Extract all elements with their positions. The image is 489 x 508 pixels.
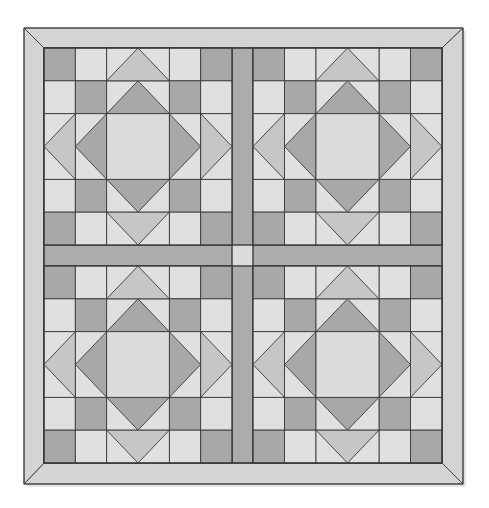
block-bottom-right (253, 266, 442, 463)
light-square (253, 397, 285, 430)
dark-square (253, 48, 285, 81)
border-right (442, 28, 463, 484)
center-square (316, 332, 379, 398)
border-top (24, 28, 463, 48)
dark-square (201, 48, 232, 81)
light-square (201, 397, 232, 430)
border-left (24, 28, 44, 484)
dark-square (169, 299, 200, 332)
light-square (201, 179, 232, 212)
dark-square (44, 430, 75, 463)
dark-square (379, 299, 411, 332)
center-square (107, 332, 170, 398)
light-square (285, 430, 317, 463)
light-square (44, 81, 75, 114)
cornerstone (232, 245, 253, 266)
light-square (75, 212, 106, 245)
light-square (169, 48, 200, 81)
light-square (411, 397, 443, 430)
quilt-svg (0, 0, 489, 508)
light-square (379, 430, 411, 463)
block-bottom-left (44, 266, 232, 463)
dark-square (411, 430, 443, 463)
dark-square (285, 81, 317, 114)
dark-square (44, 48, 75, 81)
dark-square (44, 266, 75, 299)
dark-square (253, 430, 285, 463)
dark-square (75, 179, 106, 212)
dark-square (75, 81, 106, 114)
center-square (107, 114, 170, 180)
center-square (316, 114, 379, 180)
light-square (44, 179, 75, 212)
dark-square (379, 397, 411, 430)
light-square (201, 299, 232, 332)
dark-square (411, 212, 443, 245)
light-square (379, 212, 411, 245)
light-square (253, 299, 285, 332)
light-square (411, 299, 443, 332)
dark-square (75, 397, 106, 430)
dark-square (285, 179, 317, 212)
light-square (201, 81, 232, 114)
light-square (379, 48, 411, 81)
dark-square (285, 299, 317, 332)
dark-square (253, 266, 285, 299)
dark-square (253, 212, 285, 245)
light-square (169, 212, 200, 245)
dark-square (379, 179, 411, 212)
dark-square (285, 397, 317, 430)
block-top-left (44, 48, 232, 245)
light-square (411, 179, 443, 212)
dark-square (201, 430, 232, 463)
dark-square (169, 179, 200, 212)
light-square (253, 179, 285, 212)
light-square (75, 266, 106, 299)
dark-square (169, 397, 200, 430)
light-square (75, 48, 106, 81)
light-square (285, 266, 317, 299)
light-square (379, 266, 411, 299)
light-square (44, 299, 75, 332)
dark-square (44, 212, 75, 245)
dark-square (169, 81, 200, 114)
light-square (253, 81, 285, 114)
quilt-diagram (0, 0, 489, 508)
light-square (75, 430, 106, 463)
block-top-right (253, 48, 442, 245)
dark-square (411, 48, 443, 81)
light-square (44, 397, 75, 430)
light-square (285, 212, 317, 245)
light-square (411, 81, 443, 114)
light-square (285, 48, 317, 81)
dark-square (201, 266, 232, 299)
dark-square (411, 266, 443, 299)
light-square (169, 430, 200, 463)
light-square (169, 266, 200, 299)
dark-square (379, 81, 411, 114)
border-bottom (24, 463, 463, 484)
dark-square (75, 299, 106, 332)
dark-square (201, 212, 232, 245)
